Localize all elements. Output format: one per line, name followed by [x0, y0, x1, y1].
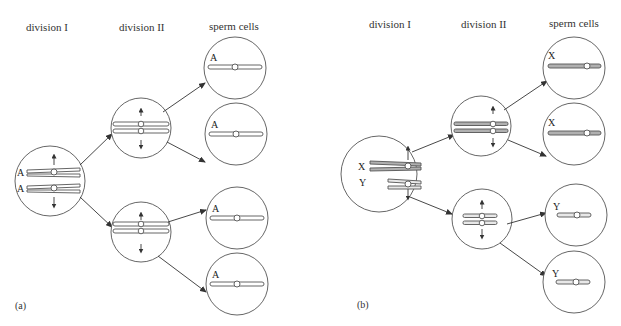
panel-a-sperm-cell-2	[205, 103, 267, 165]
panel-a-sperm-cell-4	[206, 253, 268, 315]
panel-a-sperm-allele-4: A	[212, 269, 220, 280]
panel-a-division2-cell-top	[111, 98, 171, 158]
panel-a-sperm-allele-2: A	[211, 119, 219, 130]
panel-a-sperm-cell-1	[204, 37, 266, 99]
panel-a-division2-cell-bottom	[111, 202, 171, 262]
panel-b-sperm-cell-4	[543, 251, 605, 313]
panel-a-sperm-cell-3	[206, 187, 268, 249]
panel-b-d1-allele-x: X	[358, 161, 366, 172]
panel-b-sperm-allele-2: X	[548, 117, 556, 128]
panel-b-sperm-allele-4: Y	[552, 268, 559, 279]
panel-b-sperm-cell-3	[545, 184, 607, 246]
panel-b: X Y	[341, 37, 607, 313]
panel-b-d1-allele-y: Y	[359, 177, 366, 188]
panel-a-d1-allele-1: A	[17, 167, 25, 178]
panel-a-division1-cell	[15, 146, 85, 216]
panel-b-sperm-cell-2	[543, 103, 605, 165]
panel-a: A A	[15, 37, 268, 315]
panel-b-sperm-cell-1	[543, 37, 605, 99]
panel-a-d1-allele-2: A	[17, 183, 25, 194]
panel-b-sperm-allele-1: X	[548, 50, 556, 61]
panel-b-sperm-allele-3: Y	[553, 201, 560, 212]
panel-b-division2-cell-top	[451, 96, 511, 156]
meiosis-diagram: A A	[0, 0, 621, 326]
panel-a-sperm-allele-3: A	[212, 203, 220, 214]
panel-b-division1-cell	[341, 136, 421, 212]
panel-a-sperm-allele-1: A	[210, 52, 218, 63]
panel-b-division2-cell-bottom	[452, 189, 512, 249]
